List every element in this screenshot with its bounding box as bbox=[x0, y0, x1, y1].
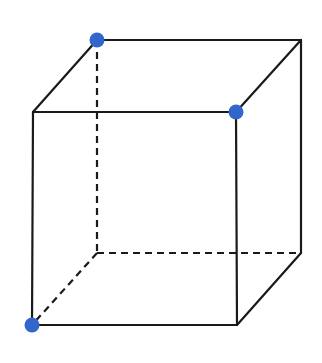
highlighted-vertices bbox=[25, 33, 244, 333]
edge-A_front_top_left-E_back_top_left bbox=[33, 40, 97, 112]
vertex-dot-B_front_top_right bbox=[229, 105, 244, 120]
edge-B_front_top_right-C_front_bottom_right bbox=[236, 112, 237, 325]
vertex-dot-D_front_bottom_left bbox=[25, 318, 40, 333]
hidden-edges bbox=[32, 40, 301, 325]
cube-diagram bbox=[0, 0, 322, 363]
vertex-dot-E_back_top_left bbox=[90, 33, 105, 48]
edge-C_front_bottom_right-G_back_bottom_right bbox=[237, 253, 301, 325]
edge-D_front_bottom_left-A_front_top_left bbox=[32, 112, 33, 325]
edge-B_front_top_right-F_back_top_right bbox=[236, 40, 301, 112]
hidden-edge-H_back_bottom_left-D_front_bottom_left bbox=[32, 253, 97, 325]
visible-edges bbox=[32, 40, 301, 325]
